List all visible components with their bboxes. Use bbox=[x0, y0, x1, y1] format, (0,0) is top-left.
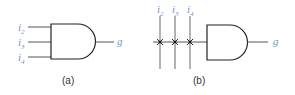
input-label-i2: i2 bbox=[18, 21, 25, 36]
output-label-g: g bbox=[117, 35, 123, 47]
panel-a: i2 i3 i4 g (a) bbox=[18, 21, 123, 86]
panel-b: i2 i3 i4 g (b) bbox=[153, 3, 279, 86]
input-label-i3: i3 bbox=[172, 3, 179, 18]
and-gate-icon bbox=[51, 24, 95, 59]
input-label-i2: i2 bbox=[157, 3, 164, 18]
input-label-i3: i3 bbox=[18, 36, 25, 51]
and-gate-icon bbox=[207, 25, 248, 60]
input-label-i4: i4 bbox=[187, 3, 194, 18]
and-gate-diagram: i2 i3 i4 g (a) i2 i3 i4 g (b) bbox=[0, 0, 295, 95]
caption-b: (b) bbox=[193, 75, 205, 86]
output-label-g: g bbox=[273, 35, 279, 47]
input-label-i4: i4 bbox=[18, 51, 25, 66]
caption-a: (a) bbox=[62, 75, 74, 86]
